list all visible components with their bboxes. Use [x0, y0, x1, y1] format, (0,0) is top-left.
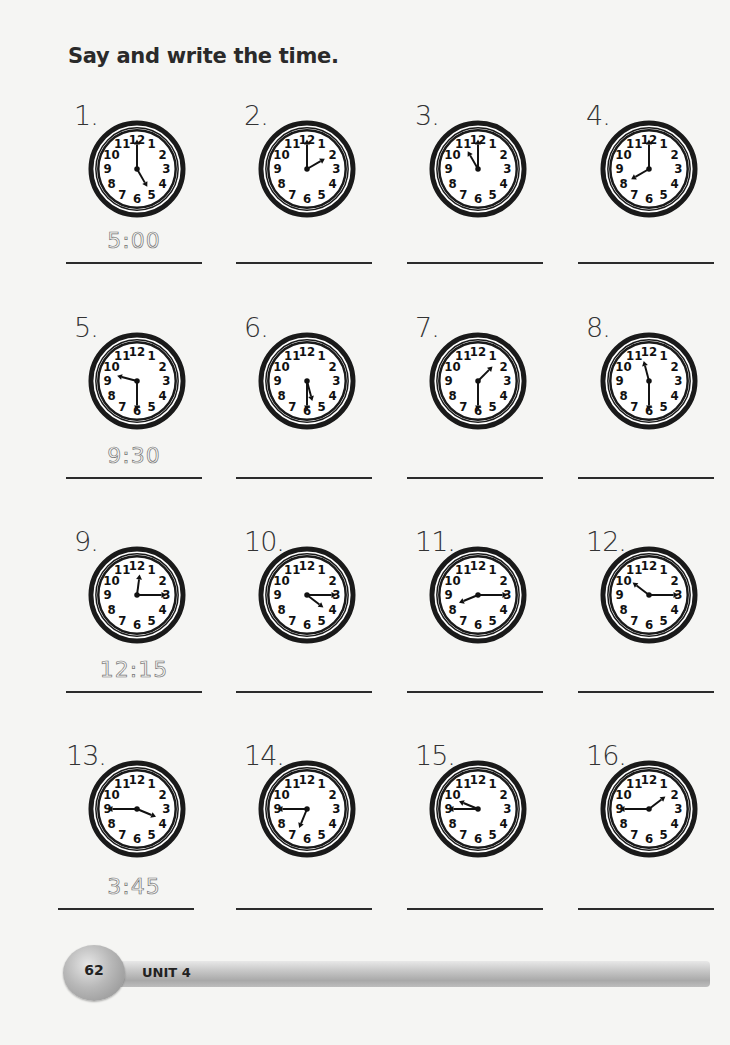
svg-text:11: 11 [455, 563, 471, 577]
clock-item: 9.12123456789101112:15 [66, 526, 236, 741]
svg-text:7: 7 [630, 614, 638, 628]
clock-face-icon: 121234567891011 [600, 120, 698, 218]
answer-line-input[interactable] [578, 908, 714, 910]
clock-item: 3.121234567891011 [407, 100, 577, 315]
answer-line-input[interactable] [236, 477, 372, 479]
svg-text:6: 6 [474, 192, 482, 206]
svg-text:11: 11 [626, 563, 642, 577]
clock-face-icon: 121234567891011 [258, 760, 356, 858]
clock-face-icon: 121234567891011 [429, 546, 527, 644]
answer-text: 12:15 [66, 657, 202, 682]
svg-text:7: 7 [630, 188, 638, 202]
svg-text:11: 11 [114, 777, 130, 791]
answer-line-input[interactable] [236, 908, 372, 910]
clock-face-icon: 121234567891011 [258, 546, 356, 644]
svg-text:12: 12 [641, 773, 657, 787]
answer-line-input[interactable] [58, 908, 194, 910]
svg-text:4: 4 [328, 817, 336, 831]
clock-face-icon: 121234567891011 [600, 332, 698, 430]
svg-text:7: 7 [118, 828, 126, 842]
svg-text:9: 9 [104, 162, 112, 176]
svg-text:3: 3 [332, 162, 340, 176]
svg-text:1: 1 [489, 563, 497, 577]
svg-text:2: 2 [158, 788, 166, 802]
answer-text: 5:00 [66, 228, 202, 253]
svg-text:11: 11 [626, 137, 642, 151]
svg-text:8: 8 [619, 603, 627, 617]
svg-text:6: 6 [474, 832, 482, 846]
answer-line-input[interactable] [407, 908, 543, 910]
svg-text:8: 8 [277, 177, 285, 191]
answer-line-input[interactable] [66, 262, 202, 264]
answer-text: 3:45 [66, 874, 202, 899]
svg-text:8: 8 [107, 389, 115, 403]
answer-line-input[interactable] [578, 691, 714, 693]
svg-text:11: 11 [114, 349, 130, 363]
svg-text:11: 11 [284, 777, 300, 791]
svg-text:7: 7 [288, 614, 296, 628]
svg-text:4: 4 [670, 389, 678, 403]
svg-text:3: 3 [503, 162, 511, 176]
svg-text:12: 12 [129, 345, 145, 359]
svg-text:9: 9 [445, 588, 453, 602]
svg-text:6: 6 [645, 618, 653, 632]
svg-text:8: 8 [448, 603, 456, 617]
svg-text:1: 1 [660, 563, 668, 577]
answer-line-input[interactable] [407, 477, 543, 479]
answer-line-input[interactable] [236, 691, 372, 693]
svg-text:12: 12 [129, 559, 145, 573]
svg-text:12: 12 [299, 559, 315, 573]
svg-text:2: 2 [328, 574, 336, 588]
clock-face-icon: 121234567891011 [258, 120, 356, 218]
page-number: 62 [63, 962, 125, 978]
clock-item: 15.121234567891011 [407, 740, 577, 955]
svg-text:5: 5 [489, 400, 497, 414]
svg-text:5: 5 [148, 614, 156, 628]
svg-text:5: 5 [660, 828, 668, 842]
svg-text:11: 11 [626, 777, 642, 791]
svg-text:8: 8 [277, 603, 285, 617]
svg-text:3: 3 [503, 374, 511, 388]
unit-label: UNIT 4 [142, 965, 191, 980]
svg-text:2: 2 [670, 360, 678, 374]
clock-item: 2.121234567891011 [236, 100, 406, 315]
svg-text:3: 3 [332, 802, 340, 816]
answer-line-input[interactable] [578, 262, 714, 264]
svg-text:1: 1 [318, 777, 326, 791]
svg-text:9: 9 [104, 374, 112, 388]
svg-text:5: 5 [660, 400, 668, 414]
clock-item: 14.121234567891011 [236, 740, 406, 955]
svg-text:9: 9 [445, 162, 453, 176]
svg-text:4: 4 [158, 177, 166, 191]
answer-line-input[interactable] [66, 691, 202, 693]
svg-text:4: 4 [328, 389, 336, 403]
answer-line-input[interactable] [407, 691, 543, 693]
answer-line-input[interactable] [578, 477, 714, 479]
svg-text:3: 3 [162, 802, 170, 816]
svg-text:8: 8 [448, 389, 456, 403]
svg-text:11: 11 [455, 349, 471, 363]
svg-text:12: 12 [641, 559, 657, 573]
answer-line-input[interactable] [236, 262, 372, 264]
svg-text:1: 1 [318, 349, 326, 363]
svg-text:8: 8 [277, 817, 285, 831]
svg-text:6: 6 [645, 192, 653, 206]
svg-text:7: 7 [118, 188, 126, 202]
answer-line-input[interactable] [407, 262, 543, 264]
svg-text:4: 4 [499, 817, 507, 831]
svg-text:4: 4 [158, 817, 166, 831]
answer-line-input[interactable] [66, 477, 202, 479]
svg-text:5: 5 [660, 188, 668, 202]
svg-text:12: 12 [470, 773, 486, 787]
svg-text:2: 2 [158, 574, 166, 588]
svg-text:6: 6 [303, 832, 311, 846]
svg-text:2: 2 [328, 788, 336, 802]
svg-text:3: 3 [503, 802, 511, 816]
svg-text:6: 6 [303, 618, 311, 632]
svg-text:5: 5 [489, 614, 497, 628]
svg-text:2: 2 [499, 574, 507, 588]
svg-text:8: 8 [448, 177, 456, 191]
svg-text:5: 5 [489, 188, 497, 202]
svg-text:5: 5 [660, 614, 668, 628]
svg-text:3: 3 [332, 374, 340, 388]
